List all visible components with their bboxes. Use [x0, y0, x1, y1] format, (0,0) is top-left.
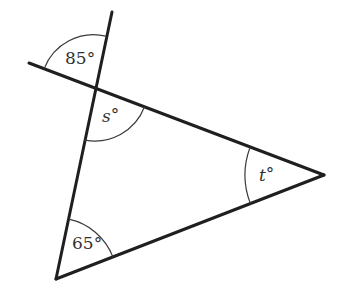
side-upper-line	[29, 63, 324, 175]
degree-symbol-t: °	[266, 163, 275, 183]
angle-arc-t	[245, 147, 250, 204]
angle-label-85: 85°	[65, 48, 95, 68]
angle-label-65: 65°	[72, 233, 102, 253]
degree-symbol-s: °	[111, 104, 120, 124]
triangle-diagram: 85° s° t° 65°	[0, 0, 343, 300]
angle-var-s: s	[102, 106, 111, 126]
angle-label-s: s°	[102, 104, 119, 126]
angle-label-t: t°	[259, 163, 274, 185]
side-bottom-line	[56, 175, 324, 279]
